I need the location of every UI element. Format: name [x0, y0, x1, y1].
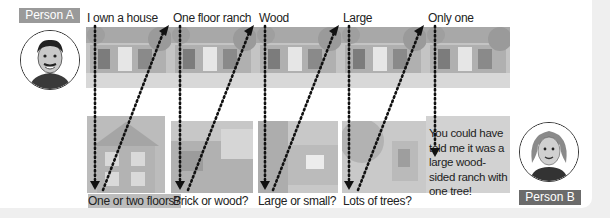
dotted-arrow-icon: [0, 0, 610, 218]
